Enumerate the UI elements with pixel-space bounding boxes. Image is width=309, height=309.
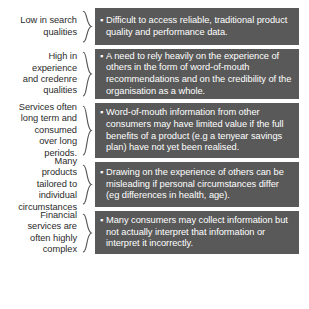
row-callout-cell: Drawing on the experience of others can …	[95, 162, 299, 207]
bullet-item: A need to rely heavily on the experience…	[100, 51, 293, 98]
callout-box: Drawing on the experience of others can …	[95, 162, 299, 207]
diagram-row: Many products tailored to individual cir…	[0, 162, 299, 207]
row-label-text: Low in search qualities	[20, 15, 77, 38]
bullet-item: Many consumers may collect information b…	[100, 215, 293, 250]
bullet-item: Drawing on the experience of others can …	[100, 167, 293, 202]
row-label-cell: Financial services are often highly comp…	[0, 211, 80, 254]
row-callout-cell: A need to rely heavily on the experience…	[95, 49, 299, 99]
bullet-text: Many consumers may collect information b…	[106, 215, 293, 250]
row-label-cell: High in experience and credenre qualitie…	[0, 49, 80, 99]
bullet-item: Word-of-mouth information from other con…	[100, 107, 293, 154]
bullet-item: Difficult to access reliable, traditiona…	[100, 15, 293, 38]
curly-brace-icon	[80, 162, 95, 207]
paired-callout-diagram: Low in search qualities Difficult to acc…	[0, 0, 309, 309]
callout-box: Word-of-mouth information from other con…	[95, 103, 299, 158]
diagram-row: High in experience and credenre qualitie…	[0, 49, 299, 99]
bullet-text: Word-of-mouth information from other con…	[106, 107, 293, 154]
bullet-text: A need to rely heavily on the experience…	[106, 51, 293, 98]
diagram-row: Services often long term and consumed ov…	[0, 103, 299, 158]
row-label-cell: Many products tailored to individual cir…	[0, 162, 80, 207]
curly-brace-icon	[80, 8, 95, 45]
diagram-row: Financial services are often highly comp…	[0, 211, 299, 254]
callout-box: Difficult to access reliable, traditiona…	[95, 8, 299, 45]
row-label-cell: Services often long term and consumed ov…	[0, 103, 80, 158]
row-label-cell: Low in search qualities	[0, 8, 80, 45]
row-label-text: Many products tailored to individual cir…	[18, 156, 77, 213]
row-callout-cell: Difficult to access reliable, traditiona…	[95, 8, 299, 45]
bullet-text: Difficult to access reliable, traditiona…	[106, 15, 293, 38]
row-callout-cell: Many consumers may collect information b…	[95, 211, 299, 254]
callout-box: A need to rely heavily on the experience…	[95, 49, 299, 99]
row-label-text: Services often long term and consumed ov…	[19, 102, 77, 159]
bullet-text: Drawing on the experience of others can …	[106, 167, 293, 202]
diagram-row: Low in search qualities Difficult to acc…	[0, 8, 299, 45]
curly-brace-icon	[80, 103, 95, 158]
curly-brace-icon	[80, 49, 95, 99]
row-callout-cell: Word-of-mouth information from other con…	[95, 103, 299, 158]
curly-brace-icon	[80, 211, 95, 254]
row-label-text: High in experience and credenre qualitie…	[23, 51, 77, 97]
row-label-text: Financial services are often highly comp…	[27, 210, 77, 256]
callout-box: Many consumers may collect information b…	[95, 211, 299, 254]
